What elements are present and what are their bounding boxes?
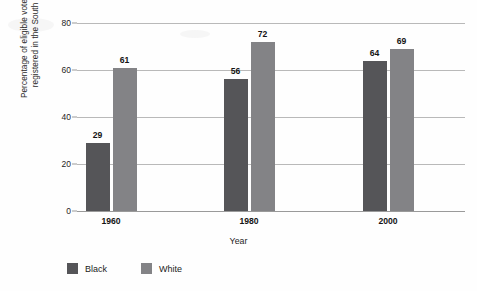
y-axis-ticks: 020406080 bbox=[43, 23, 71, 211]
x-tick-label-2000: 2000 bbox=[378, 216, 397, 226]
legend-swatch-icon bbox=[141, 263, 152, 274]
y-tick-label: 80 bbox=[45, 18, 71, 28]
bar-white-1980 bbox=[251, 42, 275, 211]
legend-swatch-icon bbox=[67, 263, 78, 274]
bar-white-1960 bbox=[113, 68, 137, 211]
y-axis-title-line-2: registered in the South bbox=[30, 3, 41, 88]
legend-label: Black bbox=[85, 264, 107, 274]
chart-legend: BlackWhite bbox=[67, 263, 182, 274]
x-tick-label-1980: 1980 bbox=[239, 216, 258, 226]
legend-item-white[interactable]: White bbox=[141, 263, 182, 274]
bar-value-label: 69 bbox=[397, 36, 407, 46]
y-tick-label: 20 bbox=[45, 159, 71, 169]
y-axis-title-line-1: Percentage of eligible voters bbox=[19, 0, 30, 98]
axis-baseline bbox=[77, 211, 465, 212]
bar-value-label: 64 bbox=[370, 48, 380, 58]
x-tick-label-1960: 1960 bbox=[101, 216, 120, 226]
bar-chart-figure: Percentage of eligible voters registered… bbox=[0, 0, 477, 291]
y-tick-label: 40 bbox=[45, 112, 71, 122]
plot-area: 296156726469 bbox=[77, 23, 465, 211]
legend-label: White bbox=[159, 264, 182, 274]
y-axis-title: Percentage of eligible voters registered… bbox=[15, 0, 45, 135]
x-axis-title: Year bbox=[0, 236, 477, 246]
legend-item-black[interactable]: Black bbox=[67, 263, 107, 274]
bar-white-2000 bbox=[390, 49, 414, 211]
bar-value-label: 56 bbox=[231, 66, 241, 76]
bar-value-label: 29 bbox=[93, 130, 103, 140]
y-tick-label: 60 bbox=[45, 65, 71, 75]
bar-black-2000 bbox=[363, 61, 387, 211]
bar-value-label: 61 bbox=[120, 55, 130, 65]
gridline bbox=[77, 23, 465, 24]
bar-black-1980 bbox=[224, 79, 248, 211]
bar-value-label: 72 bbox=[258, 29, 268, 39]
bar-black-1960 bbox=[86, 143, 110, 211]
y-tick-label: 0 bbox=[45, 206, 71, 216]
